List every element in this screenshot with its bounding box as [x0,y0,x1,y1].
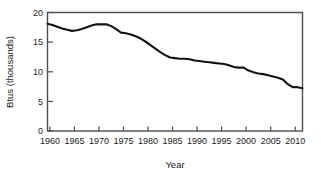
x-tick-label: 1975 [113,136,133,146]
y-tick-labels: 0 5 10 15 20 [33,8,43,136]
y-tick-label: 5 [38,97,43,107]
x-axis-title: Year [165,159,184,170]
x-tick-label: 1980 [138,136,158,146]
chart-figure: 0 5 10 15 20 1960 1965 1970 1975 1980 19… [0,0,321,179]
x-tick-label: 1995 [212,136,232,146]
line-chart: 0 5 10 15 20 1960 1965 1970 1975 1980 19… [0,0,321,179]
y-tick-label: 10 [33,67,43,77]
y-axis-title: Btus (thousands) [4,36,15,108]
x-tick-label: 2005 [261,136,281,146]
x-tick-label: 1990 [187,136,207,146]
plot-frame [48,13,303,132]
data-line-series-0 [48,24,303,89]
x-tick-label: 1970 [89,136,109,146]
y-tick-marks [48,13,54,132]
x-tick-label: 2010 [285,136,305,146]
y-tick-label: 20 [33,8,43,18]
x-tick-label: 2000 [236,136,256,146]
x-tick-labels: 1960 1965 1970 1975 1980 1985 1990 1995 … [40,136,305,146]
y-tick-label: 15 [33,37,43,47]
x-tick-label: 1960 [40,136,60,146]
x-tick-label: 1965 [64,136,84,146]
x-tick-label: 1985 [162,136,182,146]
